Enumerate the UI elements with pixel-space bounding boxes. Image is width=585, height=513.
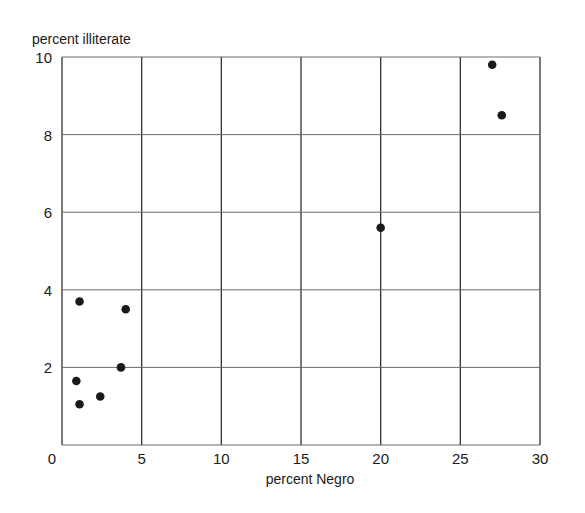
data-point xyxy=(121,305,130,314)
x-tick-label: 15 xyxy=(293,450,310,467)
y-axis-ticks: 246810 xyxy=(35,49,52,376)
y-tick-label: 8 xyxy=(44,127,52,144)
y-axis-label: percent illiterate xyxy=(32,31,131,47)
grid-lines xyxy=(62,57,540,445)
data-point xyxy=(96,392,105,401)
data-points xyxy=(72,60,506,408)
x-axis-label: percent Negro xyxy=(266,471,355,487)
data-point xyxy=(75,297,84,306)
data-point xyxy=(497,111,506,120)
x-tick-label: 20 xyxy=(372,450,389,467)
y-tick-label: 2 xyxy=(44,359,52,376)
data-point xyxy=(72,377,81,386)
x-tick-label: 10 xyxy=(213,450,230,467)
data-point xyxy=(117,363,126,372)
x-tick-label: 5 xyxy=(137,450,145,467)
data-point xyxy=(488,60,497,69)
scatter-chart: 051015202530 246810 percent illiterate p… xyxy=(0,0,585,513)
data-point xyxy=(75,400,84,409)
data-point xyxy=(376,223,385,232)
x-tick-label: 30 xyxy=(532,450,549,467)
y-tick-label: 10 xyxy=(35,49,52,66)
y-tick-label: 6 xyxy=(44,204,52,221)
x-tick-label: 25 xyxy=(452,450,469,467)
x-axis-ticks: 051015202530 xyxy=(48,450,549,467)
x-tick-label: 0 xyxy=(48,450,56,467)
y-tick-label: 4 xyxy=(44,282,52,299)
